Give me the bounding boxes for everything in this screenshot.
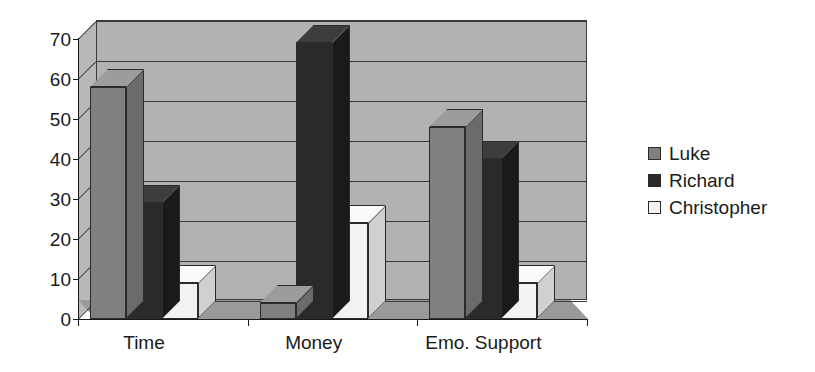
bar-front-face — [90, 87, 126, 319]
x-axis-category-label: Time — [123, 332, 165, 354]
y-axis-tick-label: 50 — [50, 110, 71, 129]
bar-side-face — [465, 109, 483, 319]
chart-screenshot: 010203040506070 Emo. SupportMoneyTime Lu… — [0, 0, 815, 372]
chart-legend: LukeRichardChristopher — [648, 140, 767, 221]
x-axis-category-label: Emo. Support — [425, 332, 541, 354]
x-axis-tick — [417, 319, 418, 326]
y-axis-tick-label: 70 — [50, 30, 71, 49]
bar-side-face — [368, 205, 386, 319]
bar-luke-emo-support — [429, 127, 465, 319]
bar-front-face — [260, 303, 296, 319]
plot-area: 010203040506070 Emo. SupportMoneyTime — [78, 20, 587, 320]
bar-luke-time — [90, 87, 126, 319]
y-axis-tick-label: 10 — [50, 270, 71, 289]
x-axis-tick — [78, 319, 79, 326]
bar-side-face — [332, 25, 350, 319]
y-axis-tick-label: 30 — [50, 190, 71, 209]
x-axis-tick — [587, 319, 588, 326]
bar-richard-money — [296, 43, 332, 319]
bar-side-face — [162, 185, 180, 319]
bar-side-face — [501, 141, 519, 319]
bar-front-face — [429, 127, 465, 319]
y-axis-tick-label: 60 — [50, 70, 71, 89]
x-axis-category-label: Money — [285, 332, 342, 354]
legend-item-label: Richard — [669, 171, 734, 190]
legend-item-luke[interactable]: Luke — [648, 140, 767, 167]
legend-swatch-icon — [648, 147, 661, 160]
legend-swatch-icon — [648, 174, 661, 187]
bar-side-face — [126, 69, 144, 319]
x-axis-tick — [248, 319, 249, 326]
legend-item-christopher[interactable]: Christopher — [648, 194, 767, 221]
bar-front-face — [296, 43, 332, 319]
legend-item-label: Luke — [669, 144, 710, 163]
legend-item-richard[interactable]: Richard — [648, 167, 767, 194]
x-axis-line — [78, 319, 588, 320]
bar-luke-money — [260, 303, 296, 319]
y-axis-line — [78, 38, 79, 320]
y-axis-tick-label: 0 — [60, 310, 71, 329]
legend-item-label: Christopher — [669, 198, 767, 217]
y-axis-tick-label: 20 — [50, 230, 71, 249]
gridline — [96, 21, 587, 22]
y-axis-tick-label: 40 — [50, 150, 71, 169]
legend-swatch-icon — [648, 201, 661, 214]
